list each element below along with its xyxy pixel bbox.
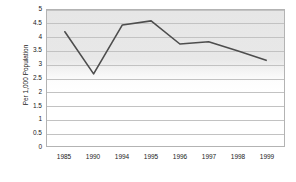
series-polyline bbox=[65, 21, 266, 74]
line-chart: Per 1,000 Population 00.511.522.533.544.… bbox=[0, 0, 296, 182]
y-axis-tick-label: 1.5 bbox=[26, 102, 42, 109]
y-axis-tick-label: 5 bbox=[26, 6, 42, 13]
y-axis-tick-label: 3.5 bbox=[26, 47, 42, 54]
plot-area bbox=[46, 9, 285, 147]
y-axis-tick-label: 4.5 bbox=[26, 20, 42, 27]
series-line bbox=[47, 10, 284, 146]
y-axis-tick-label: 1 bbox=[26, 116, 42, 123]
y-axis-tick-labels: 00.511.522.533.544.55 bbox=[26, 9, 42, 147]
y-axis-tick-label: 4 bbox=[26, 33, 42, 40]
y-axis-tick-label: 0 bbox=[26, 144, 42, 151]
y-axis-tick-label: 2 bbox=[26, 89, 42, 96]
y-axis-tick-label: 2.5 bbox=[26, 75, 42, 82]
y-axis-tick-label: 3 bbox=[26, 61, 42, 68]
x-axis-tick-label: 1999 bbox=[249, 152, 285, 162]
x-axis-tick-labels: 19851990199419951996199719981999 bbox=[46, 152, 285, 164]
y-axis-tick-label: 0.5 bbox=[26, 130, 42, 137]
